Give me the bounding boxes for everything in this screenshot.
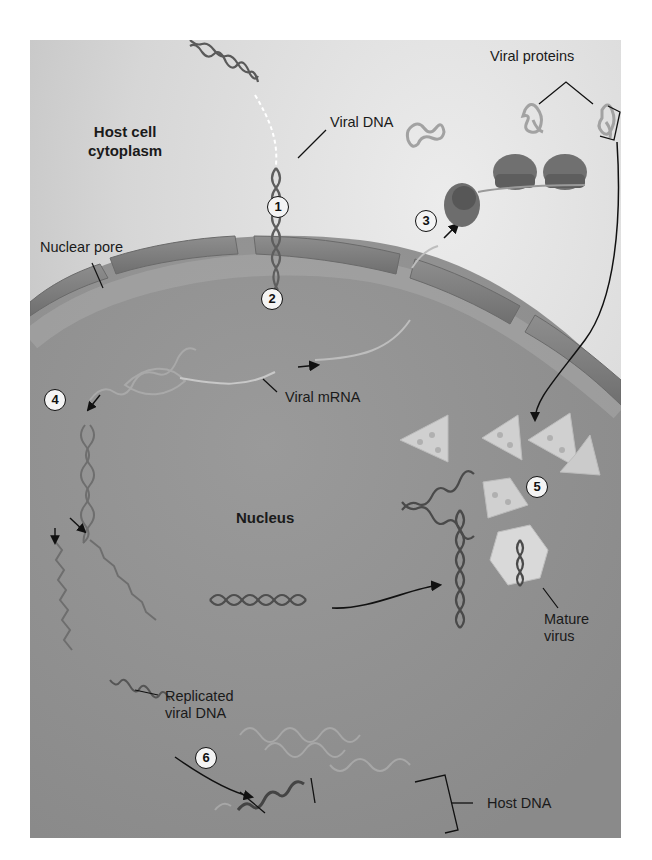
step-marker-2: 2 <box>261 288 283 310</box>
step-marker-3: 3 <box>415 210 437 232</box>
step-marker-5: 5 <box>526 476 548 498</box>
region-label-cytoplasm: Host cell cytoplasm <box>88 122 162 160</box>
step-marker-1: 1 <box>267 196 289 218</box>
label-nuclear-pore: Nuclear pore <box>40 239 123 256</box>
label-replicated-viral-dna: Replicated viral DNA <box>165 688 234 722</box>
label-host-dna: Host DNA <box>487 795 551 812</box>
label-viral-dna: Viral DNA <box>330 114 393 131</box>
step-marker-4: 4 <box>44 389 66 411</box>
region-label-nucleus: Nucleus <box>236 508 294 527</box>
step-marker-6: 6 <box>195 747 217 769</box>
label-mature-virus: Mature virus <box>544 611 589 645</box>
label-viral-mrna: Viral mRNA <box>285 389 360 406</box>
label-viral-proteins: Viral proteins <box>490 48 574 65</box>
diagram-frame: Host cell cytoplasm Viral DNA Nuclear po… <box>30 40 621 838</box>
